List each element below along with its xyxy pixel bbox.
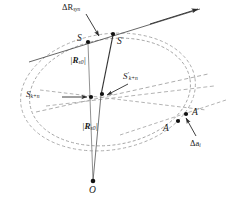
label-A-prime: A′ <box>192 107 199 117</box>
label-S-prime: S′ <box>117 36 123 46</box>
track-line-upper <box>29 9 200 62</box>
track-line-lower-right <box>120 100 226 135</box>
point-A-prime <box>184 112 188 116</box>
label-delta-r-syn: ΔRsyn <box>62 3 80 12</box>
range-vector-s0-lower <box>93 35 113 181</box>
point-S-prime <box>111 32 115 36</box>
point-A <box>176 119 180 123</box>
point-S-k-n-prime <box>100 92 104 96</box>
label-S: S <box>77 34 82 44</box>
leader-s-k-n-prime <box>107 84 128 95</box>
point-S-k-n <box>89 95 93 99</box>
label-O: O <box>89 186 96 196</box>
label-S-k-n-prime: S′k+n <box>123 71 138 81</box>
point-O <box>91 179 96 184</box>
label-delta-a-i: Δai <box>190 139 201 148</box>
range-vector-s0-upper <box>88 43 93 181</box>
label-A: A <box>163 124 169 134</box>
outer-ellipse <box>12 21 204 163</box>
label-S-k-n: Sk+n <box>26 90 40 100</box>
geometry-figure: ΔRsyn S S′ |Rs0| S′k+n Sk+n |Rs0| A A′ Δ… <box>0 0 230 199</box>
label-range-s0-upper: |Rs0| <box>70 56 86 66</box>
point-S <box>86 40 90 44</box>
leader-delta-r-syn <box>86 14 99 36</box>
leader-delta-a-i <box>186 118 196 136</box>
label-range-s0-lower: |Rs0| <box>82 122 98 132</box>
